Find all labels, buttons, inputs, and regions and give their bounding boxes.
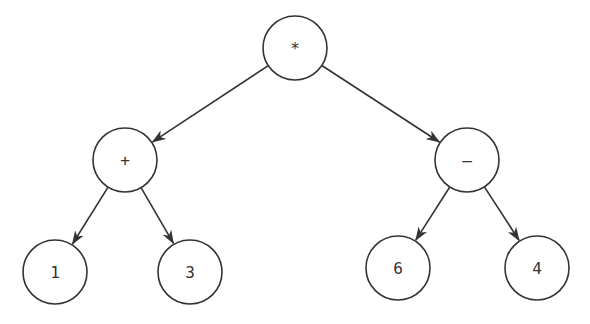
node-label: + bbox=[120, 151, 130, 170]
tree-node-root: * bbox=[263, 16, 327, 80]
tree-node-n6: 6 bbox=[366, 236, 430, 300]
node-label: 1 bbox=[50, 263, 60, 282]
node-label: * bbox=[290, 39, 300, 58]
edge-arrow bbox=[72, 187, 108, 244]
tree-node-n3: 3 bbox=[158, 240, 222, 304]
edge-arrow bbox=[416, 187, 450, 240]
node-label: 4 bbox=[532, 259, 542, 278]
tree-node-n1: 1 bbox=[23, 240, 87, 304]
node-label: 3 bbox=[185, 263, 195, 282]
edge-arrow bbox=[141, 188, 173, 244]
tree-node-minus: – bbox=[435, 128, 499, 192]
edge-arrow bbox=[484, 187, 519, 240]
edge-arrow bbox=[153, 66, 269, 142]
node-label: 6 bbox=[393, 259, 403, 278]
node-label: – bbox=[462, 151, 472, 170]
tree-node-plus: + bbox=[93, 128, 157, 192]
nodes: *+–1364 bbox=[23, 16, 569, 304]
tree-node-n4: 4 bbox=[505, 236, 569, 300]
edge-arrow bbox=[322, 65, 440, 142]
expression-tree-diagram: *+–1364 bbox=[0, 0, 590, 324]
